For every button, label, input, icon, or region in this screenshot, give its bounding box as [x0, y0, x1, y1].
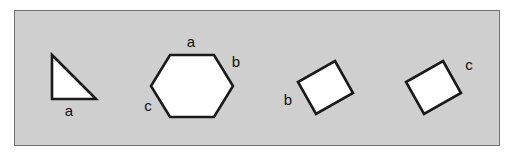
right-triangle-label-a: a [65, 102, 74, 119]
rotated-rectangle-left [298, 61, 353, 114]
rotated-rectangle-right [406, 61, 461, 114]
rotated-rectangle-right-label-c: c [465, 56, 473, 73]
hexagon-label-b: b [232, 53, 240, 70]
right-triangle [52, 55, 96, 99]
rotated-rectangle-left-label-b: b [284, 91, 292, 108]
hexagon-label-c: c [144, 97, 152, 114]
shapes-group [52, 55, 461, 117]
geometry-figure: aabcbc [0, 0, 517, 156]
hexagon [151, 55, 233, 117]
shape-labels-group: aabcbc [65, 33, 473, 119]
hexagon-label-a: a [187, 33, 196, 50]
shapes-canvas: aabcbc [0, 0, 517, 156]
